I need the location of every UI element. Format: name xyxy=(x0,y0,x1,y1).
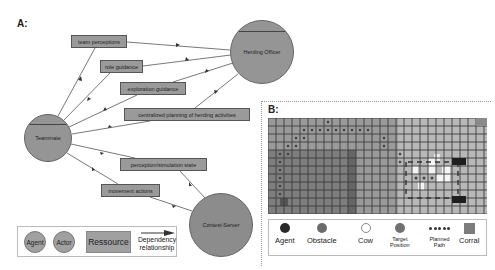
legend-b-corral-label: Corral xyxy=(459,236,479,245)
legend-actor-symbol: Actor xyxy=(53,231,75,253)
legend-panel-a: Agent Actor Ressource Dependency relatio… xyxy=(17,226,177,257)
legend-b-agent-label: Agent xyxy=(275,236,295,245)
actor-teammate: Teammate xyxy=(24,114,72,162)
legend-b-agent: Agent xyxy=(275,223,295,245)
legend-b-planned-path: Planned Path xyxy=(429,223,450,248)
resource-movement-actions: movement actions xyxy=(101,184,160,197)
legend-panel-b: Agent Obstacle Cow Target Position Plann… xyxy=(268,219,487,256)
resource-centralized-planning: centralized planning of herding activiti… xyxy=(124,108,250,121)
legend-b-target: Target Position xyxy=(390,223,410,248)
actor-contest-server-label: Contest-Server xyxy=(203,222,240,228)
actor-teammate-label: Teammate xyxy=(35,135,61,141)
corral-square-icon xyxy=(464,223,475,234)
resource-exploration-guidance: exploration guidance xyxy=(120,82,186,95)
obstacle-dot-icon xyxy=(317,223,327,233)
legend-dependency-line1: Dependency xyxy=(137,236,177,244)
panel-b-label: B: xyxy=(268,104,279,115)
legend-resource-label: Ressource xyxy=(88,237,129,247)
legend-b-path-line2: Path xyxy=(429,242,450,248)
resource-team-perceptions: team perceptions xyxy=(71,35,127,48)
actor-herding-officer-label: Herding Officer xyxy=(244,49,281,55)
cow-dot-icon xyxy=(361,223,371,233)
legend-b-obstacle-label: Obstacle xyxy=(307,236,337,245)
agent-dot-icon xyxy=(280,223,290,233)
legend-agent-symbol: Agent xyxy=(24,231,46,253)
legend-dependency-label: Dependency relationship xyxy=(137,236,177,252)
resource-role-guidance: role guidance xyxy=(100,60,143,73)
actor-herding-officer: Herding Officer xyxy=(230,20,294,84)
legend-b-corral: Corral xyxy=(459,223,479,245)
legend-b-obstacle: Obstacle xyxy=(307,223,337,245)
legend-agent-label: Agent xyxy=(27,239,44,246)
herding-grid-map xyxy=(268,118,487,214)
actor-contest-server: Contest-Server xyxy=(189,193,253,257)
legend-b-cow: Cow xyxy=(358,223,373,245)
legend-dependency-line2: relationship xyxy=(137,244,177,252)
legend-b-cow-label: Cow xyxy=(358,236,373,245)
target-position-dot-icon xyxy=(395,223,405,233)
legend-resource-symbol: Ressource xyxy=(86,231,131,253)
legend-b-target-line2: Position xyxy=(390,242,410,248)
resource-perception-simulation-state: perception/simulation state xyxy=(120,158,207,171)
planned-path-dots-icon xyxy=(429,223,450,233)
legend-actor-label: Actor xyxy=(56,239,71,246)
